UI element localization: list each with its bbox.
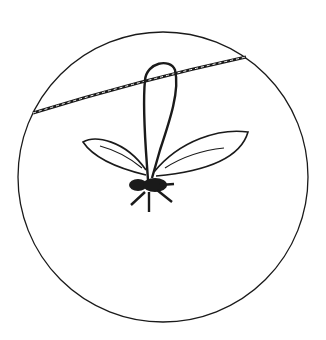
insect-body	[129, 178, 174, 212]
left-wing	[83, 139, 146, 175]
right-wing	[154, 131, 248, 176]
illustration	[0, 0, 326, 340]
wire	[33, 57, 246, 113]
